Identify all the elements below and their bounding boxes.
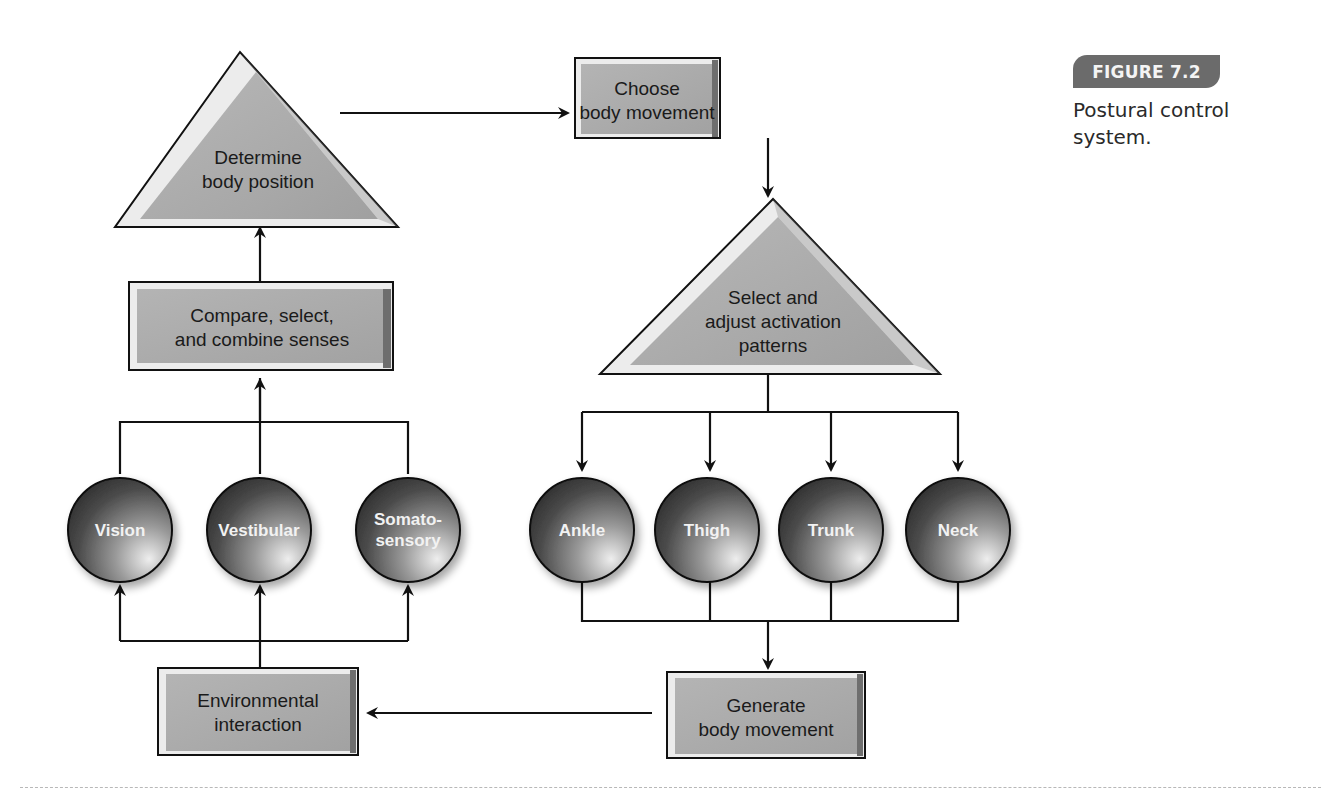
edge-senses-bus: [120, 422, 408, 474]
environmental-line1: Environmental: [197, 690, 318, 711]
edge-segments-bottom-bus: [582, 580, 958, 621]
choose-line1: Choose: [614, 78, 680, 99]
sense-inputs: Vision Vestibular Somato- sensory: [68, 478, 460, 582]
generate-line2: body movement: [698, 719, 834, 740]
node-select-activation-patterns: Select and adjust activation patterns: [600, 199, 940, 374]
node-generate-body-movement: Generate body movement: [667, 672, 865, 758]
choose-line2: body movement: [579, 102, 715, 123]
segment-thigh-label: Thigh: [684, 521, 730, 540]
segment-ankle-label: Ankle: [559, 521, 605, 540]
determine-line1: Determine: [214, 147, 302, 168]
node-compare-senses: Compare, select, and combine senses: [129, 282, 393, 370]
compare-line1: Compare, select,: [190, 305, 334, 326]
body-segments: Ankle Thigh Trunk Neck: [530, 478, 1010, 582]
figure-number-badge: FIGURE 7.2: [1073, 55, 1220, 88]
generate-line1: Generate: [726, 695, 805, 716]
select-line2: adjust activation: [705, 311, 841, 332]
determine-line2: body position: [202, 171, 314, 192]
compare-line2: and combine senses: [175, 329, 349, 350]
sense-somatosensory-label-1: Somato-: [374, 510, 442, 529]
node-environmental-interaction: Environmental interaction: [158, 668, 358, 755]
sense-vision-label: Vision: [95, 521, 146, 540]
segment-trunk-label: Trunk: [808, 521, 855, 540]
footer-divider: [20, 787, 1321, 788]
segment-neck-label: Neck: [938, 521, 979, 540]
node-choose-body-movement: Choose body movement: [575, 58, 720, 138]
select-line1: Select and: [728, 287, 818, 308]
sense-somatosensory: [356, 478, 460, 582]
figure-caption: Postural control system.: [1073, 97, 1303, 151]
select-line3: patterns: [739, 335, 808, 356]
environmental-line2: interaction: [214, 714, 302, 735]
node-determine-body-position: Determine body position: [115, 52, 398, 227]
sense-vestibular-label: Vestibular: [218, 521, 300, 540]
sense-somatosensory-label-2: sensory: [375, 531, 441, 550]
